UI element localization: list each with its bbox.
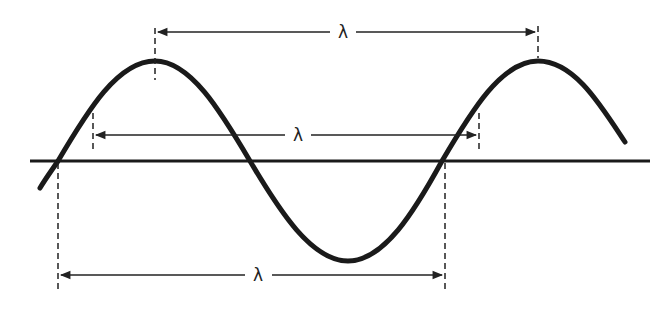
arbitrary-points-measure: λ [93, 113, 479, 153]
crest-to-crest-measure: λ [155, 22, 538, 80]
node-to-node-measure: λ [58, 163, 445, 292]
node-lambda-label: λ [253, 265, 263, 285]
arbitrary-lambda-label: λ [293, 125, 303, 145]
crest-lambda-label: λ [338, 22, 348, 42]
wavelength-diagram: λ λ λ [0, 0, 671, 310]
